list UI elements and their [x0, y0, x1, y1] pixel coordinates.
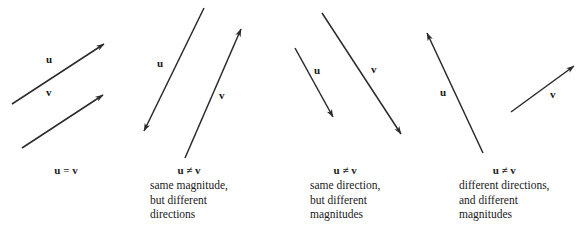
caption-line1-panel3: same direction,	[310, 178, 380, 193]
caption-line1-panel4: different directions,	[459, 178, 549, 193]
vector-v-arrow-panel1	[22, 95, 103, 148]
vector-label-v-panel4: v	[550, 89, 556, 100]
caption-relation-panel1: u = v	[36, 163, 96, 178]
vector-label-v-panel2: v	[219, 90, 225, 101]
vector-label-u-panel1: u	[46, 54, 52, 65]
caption-panel-same-magnitude: u ≠ v same magnitude, but different dire…	[150, 163, 228, 222]
vector-label-v-panel3: v	[371, 64, 377, 75]
panel-same-direction-arrows	[295, 13, 401, 134]
vector-label-u-panel3: u	[314, 65, 320, 76]
vector-v-arrow-panel2	[185, 29, 241, 158]
caption-panel-different-both: u ≠ v different directions, and differen…	[459, 163, 549, 222]
vector-u-arrow-panel3	[295, 48, 333, 117]
caption-relation-panel4: u ≠ v	[459, 163, 549, 178]
vector-u-arrow-panel1	[12, 44, 104, 104]
caption-line1-panel2: same magnitude,	[150, 178, 228, 193]
caption-panel-same-direction: u ≠ v same direction, but different magn…	[310, 163, 380, 222]
vector-v-arrow-panel4	[511, 66, 574, 112]
vector-equality-figure: u v u v u v u v u = v u ≠ v same magnitu…	[0, 0, 582, 227]
caption-line3-panel4: magnitudes	[459, 207, 549, 222]
panel-equal-arrows	[12, 44, 104, 148]
vector-label-u-panel4: u	[440, 87, 446, 98]
caption-line2-panel4: and different	[459, 193, 549, 208]
caption-line3-panel2: directions	[150, 207, 228, 222]
vector-label-u-panel2: u	[157, 58, 163, 69]
caption-relation-panel2: u ≠ v	[150, 163, 228, 178]
vector-u-arrow-panel2	[144, 8, 204, 131]
vector-u-arrow-panel4	[427, 33, 483, 153]
vector-label-v-panel1: v	[46, 87, 52, 98]
caption-line2-panel2: but different	[150, 193, 228, 208]
panel-same-magnitude-arrows	[144, 8, 241, 158]
caption-line3-panel3: magnitudes	[310, 207, 380, 222]
caption-relation-panel3: u ≠ v	[310, 163, 380, 178]
vector-v-arrow-panel3	[322, 13, 401, 134]
caption-line2-panel3: but different	[310, 193, 380, 208]
caption-panel-equal: u = v	[36, 163, 96, 178]
